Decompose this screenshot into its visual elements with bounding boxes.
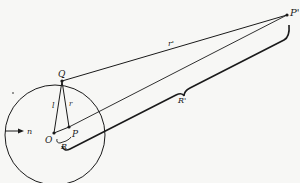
label-R-prime: R'	[177, 96, 186, 105]
brace-r-prime	[62, 25, 289, 150]
line-p-to-pfar	[69, 15, 287, 127]
line-o-to-p	[54, 127, 69, 133]
arrow-head-icon	[18, 129, 24, 134]
point-o	[52, 131, 55, 134]
line-p-to-q	[62, 81, 69, 127]
stray-mark	[12, 92, 14, 94]
label-n: n	[27, 127, 32, 136]
point-q	[60, 79, 63, 82]
label-p-far: P'	[289, 7, 299, 18]
line-o-to-q	[54, 81, 62, 133]
label-r: r	[69, 100, 73, 108]
label-R: R	[60, 142, 67, 151]
label-q: Q	[58, 69, 66, 79]
diagram-canvas: P' Q r' R' l r P O R n	[0, 0, 300, 183]
label-l: l	[52, 101, 55, 110]
diagram-figure: P' Q r' R' l r P O R n	[0, 0, 300, 183]
point-p-far	[285, 13, 288, 16]
label-p-inner: P	[71, 129, 79, 139]
point-p-inner	[67, 125, 70, 128]
label-r-prime: r'	[168, 39, 174, 48]
label-o: O	[45, 135, 53, 145]
line-q-to-pfar	[62, 15, 287, 81]
